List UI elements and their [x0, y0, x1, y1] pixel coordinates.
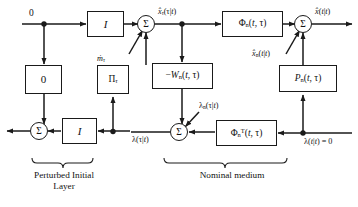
label-lambda-tau: λ(τ|t) — [132, 136, 149, 145]
summer-top-right[interactable]: Σ — [294, 15, 312, 33]
block-zero-gain-label: 0 — [41, 74, 47, 85]
block-phi-n-transpose[interactable]: ΦnT(t, τ) — [216, 120, 277, 146]
block-minus-wn-label: −Wn(t, τ) — [165, 71, 199, 81]
block-diagram: I 0 Πτ −Wn(t, τ) Φn(t, τ) Pn(t, τ) ΦnT(t… — [0, 0, 358, 207]
label-input-zero-top: 0 — [29, 8, 34, 18]
caption-nominal-medium: Nominal medium — [172, 170, 292, 181]
summer-top-left[interactable]: Σ — [137, 15, 155, 33]
block-identity-bottom-left-label: I — [78, 126, 82, 137]
label-x-hat-tau: x̂τ(τ|t) — [158, 8, 176, 17]
label-lambda-n-tau: λn(τ|t) — [199, 102, 218, 111]
summer-bottom-middle[interactable]: Σ — [170, 123, 188, 141]
label-lambda-t-zero: λ(t|t) = 0 — [304, 138, 332, 147]
caption-perturbed-initial-layer: Perturbed Initial Layer — [22, 170, 106, 191]
block-pi-tau[interactable]: Πτ — [97, 65, 129, 94]
summer-top-left-label: Σ — [143, 19, 149, 29]
block-identity-bottom-left[interactable]: I — [62, 118, 97, 144]
block-identity-top-left[interactable]: I — [87, 11, 124, 37]
block-p-n[interactable]: Pn(t, τ) — [279, 65, 337, 92]
block-phi-n-transpose-label: ΦnT(t, τ) — [231, 128, 263, 139]
block-identity-top-left-label: I — [104, 19, 108, 30]
block-zero-gain[interactable]: 0 — [25, 65, 62, 94]
block-phi-n[interactable]: Φn(t, τ) — [222, 11, 283, 37]
block-minus-wn[interactable]: −Wn(t, τ) — [152, 63, 213, 89]
summer-top-right-label: Σ — [300, 19, 306, 29]
block-phi-n-label: Φn(t, τ) — [239, 19, 267, 29]
summer-bottom-left-label: Σ — [36, 126, 42, 136]
label-x-hat-n: x̂n(t|t) — [252, 50, 270, 59]
block-p-n-label: Pn(t, τ) — [295, 74, 322, 84]
summer-bottom-middle-label: Σ — [176, 127, 182, 137]
summer-bottom-left[interactable]: Σ — [30, 122, 48, 140]
block-pi-tau-label: Πτ — [108, 75, 117, 85]
label-m-dot-tau: ṁτ — [97, 55, 105, 64]
label-x-hat-out: x̂(t|t) — [315, 8, 330, 17]
